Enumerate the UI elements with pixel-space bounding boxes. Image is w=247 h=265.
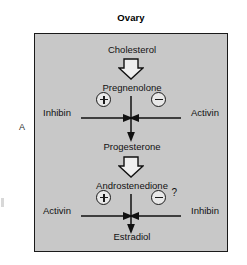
node-cholesterol: Cholesterol — [35, 44, 229, 56]
arrow-lower-right-inhibition — [129, 208, 181, 220]
arrow-lower-left-stimulation — [81, 208, 133, 220]
ovary-compartment-box: Cholesterol Pregnenolone Inhibin Activi — [34, 33, 228, 252]
uncertainty-question-mark: ? — [171, 187, 177, 198]
plus-circle-lower-left — [96, 190, 111, 205]
figure-canvas: A Ovary Cholesterol Pregnenolone Inhibin — [0, 0, 247, 265]
regulator-label-upper-right: Activin — [191, 107, 219, 119]
block-arrow-cholesterol-to-pregnenolone — [118, 58, 144, 80]
node-progesterone: Progesterone — [35, 141, 229, 153]
minus-circle-lower-right — [151, 190, 166, 205]
panel-letter: A — [14, 122, 30, 133]
figure-title: Ovary — [34, 12, 228, 24]
regulator-label-lower-right: Inhibin — [191, 205, 219, 217]
plus-circle-upper-left — [96, 92, 111, 107]
node-androstenedione: Androstenedione — [35, 180, 229, 192]
block-arrow-progesterone-to-androstenedione — [118, 156, 144, 178]
node-pregnenolone: Pregnenolone — [35, 82, 229, 94]
regulator-label-lower-left: Activin — [43, 205, 71, 217]
arrow-upper-right-inhibition — [129, 110, 181, 122]
arrow-upper-left-stimulation — [81, 110, 133, 122]
node-estradiol: Estradiol — [35, 231, 229, 243]
regulator-label-upper-left: Inhibin — [43, 107, 71, 119]
minus-circle-upper-right — [151, 92, 166, 107]
scan-artifact — [1, 198, 4, 207]
